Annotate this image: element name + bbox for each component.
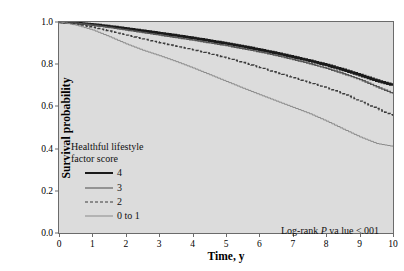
legend-line-swatch — [85, 184, 113, 192]
x-tick-mark — [159, 233, 160, 237]
legend-item-0-to-1[interactable]: 0 to 1 — [71, 210, 143, 222]
x-tick-label: 10 — [378, 233, 404, 249]
x-tick-mark — [259, 233, 260, 237]
survival-curve-figure: Survival probability 0.00.20.40.60.81.0 … — [0, 0, 404, 271]
legend-item-2[interactable]: 2 — [71, 196, 143, 208]
legend-item-4[interactable]: 4 — [71, 167, 143, 179]
legend-line-swatch — [85, 169, 113, 177]
y-tick-label: 0.2 — [19, 186, 59, 196]
y-tick-label: 0.8 — [19, 59, 59, 69]
annotation-suffix: va lue <.001 — [327, 225, 379, 236]
x-tick-mark — [393, 233, 394, 237]
legend-line-swatch — [85, 212, 113, 220]
plot-area: Survival probability 0.00.20.40.60.81.0 … — [58, 21, 394, 234]
legend-line-swatch — [85, 198, 113, 206]
legend-item-label: 2 — [117, 196, 122, 208]
survival-curve-4 — [59, 22, 393, 85]
legend-entries: 4320 to 1 — [71, 167, 143, 222]
legend-item-3[interactable]: 3 — [71, 182, 143, 194]
y-tick-label: 0.6 — [19, 101, 59, 111]
x-tick-mark — [126, 233, 127, 237]
x-tick-mark — [59, 233, 60, 237]
log-rank-annotation: Log-rank P va lue <.001 — [281, 225, 379, 236]
y-tick-label: 0.4 — [19, 144, 59, 154]
x-tick-mark — [226, 233, 227, 237]
y-tick-label: 1.0 — [19, 17, 59, 27]
legend-title: Healthful lifestyle factor score — [71, 141, 143, 165]
annotation-prefix: Log-rank — [281, 225, 321, 236]
legend-item-label: 0 to 1 — [117, 210, 140, 222]
x-axis-title: Time, y — [59, 250, 393, 262]
legend-item-label: 3 — [117, 182, 122, 194]
x-tick-mark — [92, 233, 93, 237]
legend-title-line2: factor score — [71, 153, 143, 165]
legend: Healthful lifestyle factor score 4320 to… — [71, 141, 143, 222]
x-tick-mark — [193, 233, 194, 237]
legend-item-label: 4 — [117, 167, 122, 179]
legend-title-line1: Healthful lifestyle — [71, 141, 143, 153]
survival-curve-0-to-1 — [59, 22, 393, 146]
